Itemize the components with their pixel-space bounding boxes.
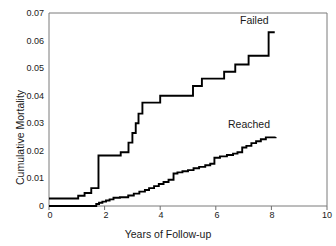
x-tick-label-8: 8 (260, 210, 284, 220)
y-tick-label-0.05: 0.05 (6, 63, 44, 73)
series-label-failed: Failed (240, 14, 269, 26)
x-axis-label: Years of Follow-up (0, 228, 336, 240)
y-tick-label-0.07: 0.07 (6, 8, 44, 18)
x-tick-label-2: 2 (94, 210, 118, 220)
y-tick-label-0.06: 0.06 (6, 36, 44, 46)
y-axis-label: Cumulative Mortality (14, 90, 26, 185)
x-tick-label-4: 4 (149, 210, 173, 220)
x-tick-label-6: 6 (205, 210, 229, 220)
x-tick-label-10: 10 (315, 210, 336, 220)
x-tick-label-0: 0 (38, 210, 62, 220)
chart-figure: 0 0.01 0.02 0.03 0.04 0.05 0.06 0.07 0 2… (0, 0, 336, 246)
series-label-reached: Reached (228, 118, 270, 130)
